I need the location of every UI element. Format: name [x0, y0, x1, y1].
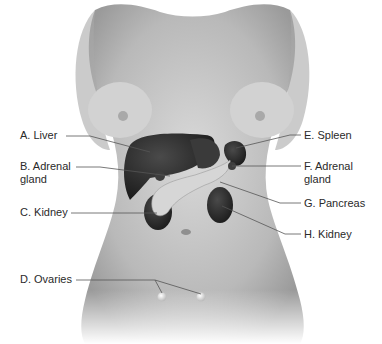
label-d-ovaries: D. Ovaries [20, 273, 72, 286]
label-f-line1: F. Adrenal [304, 160, 353, 173]
label-h-kidney: H. Kidney [304, 228, 352, 241]
label-c-kidney: C. Kidney [20, 206, 68, 219]
label-b-line1: B. Adrenal [20, 160, 71, 173]
label-e-spleen: E. Spleen [304, 129, 352, 142]
label-g-pancreas: G. Pancreas [304, 197, 365, 210]
label-a-liver: A. Liver [20, 129, 57, 142]
label-f-adrenal-gland: F. Adrenal gland [304, 160, 353, 186]
adrenal-b [155, 171, 165, 181]
label-b-line2: gland [20, 173, 71, 186]
left-ovary [158, 293, 167, 302]
right-kidney [207, 187, 233, 223]
label-f-line2: gland [304, 173, 353, 186]
label-b-adrenal-gland: B. Adrenal gland [20, 160, 71, 186]
anatomy-diagram: A. Liver B. Adrenal gland C. Kidney D. O… [0, 0, 382, 344]
